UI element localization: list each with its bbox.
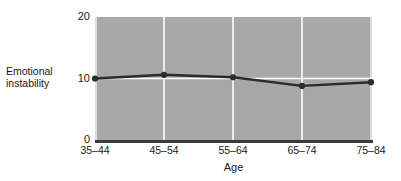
x-tick-label: 35–44 — [65, 144, 125, 156]
chart-figure: Emotional instability 20 10 0 35–4445–54… — [0, 0, 401, 181]
data-point-marker — [92, 75, 98, 81]
x-tick-label: 45–54 — [134, 144, 194, 156]
data-point-marker — [299, 83, 305, 89]
x-tick-label: 65–74 — [272, 144, 332, 156]
y-tick-label-20: 20 — [64, 11, 90, 22]
data-point-marker — [230, 74, 236, 80]
y-axis-title: Emotional instability — [6, 66, 62, 89]
y-axis-title-line-1: Emotional — [6, 66, 62, 78]
x-tick-label: 55–64 — [203, 144, 263, 156]
data-point-marker — [161, 72, 167, 78]
x-axis-title: Age — [95, 161, 372, 173]
y-axis-title-line-2: instability — [6, 78, 62, 90]
y-tick-label-10: 10 — [64, 73, 90, 84]
data-point-marker — [368, 79, 374, 85]
plot-area — [95, 17, 372, 140]
plot-svg — [95, 17, 372, 140]
x-axis-line — [95, 140, 373, 143]
x-axis-tick-labels: 35–4445–5455–6465–7475–84 — [95, 144, 372, 158]
x-tick-label: 75–84 — [341, 144, 401, 156]
